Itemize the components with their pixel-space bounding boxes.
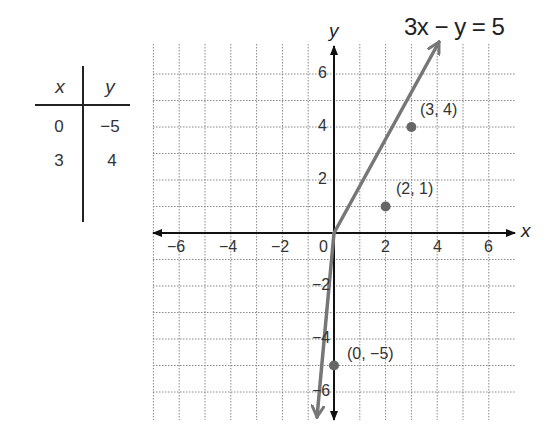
point-0-neg5 bbox=[329, 361, 339, 371]
y-tick-label: −2 bbox=[312, 276, 330, 294]
point-label: (3, 4) bbox=[420, 101, 457, 119]
x-tick-label: −2 bbox=[271, 238, 289, 256]
y-tick-label: −4 bbox=[312, 329, 330, 347]
point-2-1 bbox=[381, 202, 391, 212]
figure: x y 0 −5 3 4 bbox=[0, 0, 560, 437]
x-tick-label: 2 bbox=[381, 238, 390, 256]
x-axis-label: x bbox=[521, 220, 531, 242]
x-tick-label: 4 bbox=[433, 238, 442, 256]
point-label: (2, 1) bbox=[396, 180, 433, 198]
y-tick-label: 6 bbox=[318, 64, 327, 82]
x-tick-label: −6 bbox=[167, 238, 185, 256]
equation-label: 3x − y = 5 bbox=[404, 13, 504, 41]
x-tick-label: −4 bbox=[219, 238, 237, 256]
y-tick-label: −6 bbox=[312, 382, 330, 400]
y-tick-label: 4 bbox=[318, 117, 327, 135]
x-tick-label: 6 bbox=[484, 238, 493, 256]
y-axis-label: y bbox=[329, 20, 339, 42]
point-label: (0, −5) bbox=[347, 345, 394, 363]
x-tick-label: 0 bbox=[319, 238, 328, 256]
point-3-4 bbox=[406, 122, 416, 132]
coordinate-plane bbox=[0, 0, 560, 437]
y-tick-label: 2 bbox=[318, 170, 327, 188]
